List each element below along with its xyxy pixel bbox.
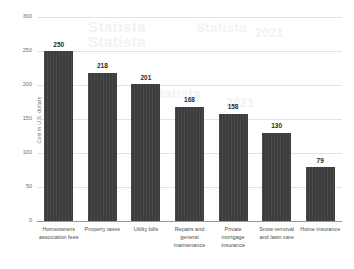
bar-value-label: 201 xyxy=(140,75,151,82)
bar[interactable] xyxy=(131,84,160,221)
bar-group[interactable]: 201 xyxy=(131,17,160,221)
y-axis-tick-label: 200 xyxy=(6,82,32,88)
bars-layer: 25021820116815813079 xyxy=(37,17,342,222)
bar-group[interactable]: 218 xyxy=(88,17,117,221)
bar[interactable] xyxy=(262,133,291,221)
x-axis-category-label: Home insurance xyxy=(299,226,341,234)
y-axis-tick-label: 100 xyxy=(6,150,32,156)
bar-group[interactable]: 158 xyxy=(219,17,248,221)
y-axis-tick-label: 250 xyxy=(6,48,32,54)
bar-value-label: 158 xyxy=(228,104,239,111)
x-axis-category-label: Private mortgage insurance xyxy=(212,226,254,250)
x-axis-category-label: Repairs and general maintenance xyxy=(169,226,211,250)
y-axis-tick-label: 50 xyxy=(6,184,32,190)
bar[interactable] xyxy=(44,51,73,221)
y-axis-title: Cost in U.S. dollars xyxy=(36,96,42,143)
bar-value-label: 130 xyxy=(271,123,282,130)
bar-group[interactable]: 250 xyxy=(44,17,73,221)
bar-group[interactable]: 79 xyxy=(306,17,335,221)
bar-group[interactable]: 168 xyxy=(175,17,204,221)
plot-area: 25021820116815813079 Cost in U.S. dollar… xyxy=(37,17,342,222)
x-axis-category-labels: Homeowners association feesProperty taxe… xyxy=(37,226,342,266)
x-axis-category-label: Snow removal and lawn care xyxy=(256,226,298,242)
bar[interactable] xyxy=(88,73,117,221)
bar-chart: Statista Statista Statista 2021 Statista… xyxy=(0,0,354,269)
y-axis-tick-label: 150 xyxy=(6,116,32,122)
y-axis-tick-label: 300 xyxy=(6,14,32,20)
x-axis-category-label: Utility bills xyxy=(125,226,167,234)
bar[interactable] xyxy=(175,107,204,221)
bar-value-label: 79 xyxy=(317,158,324,165)
bar-group[interactable]: 130 xyxy=(262,17,291,221)
bar-value-label: 168 xyxy=(184,97,195,104)
bar[interactable] xyxy=(219,114,248,221)
bar-value-label: 250 xyxy=(53,42,64,49)
bar[interactable] xyxy=(306,167,335,221)
x-axis-category-label: Property taxes xyxy=(82,226,124,234)
x-axis-category-label: Homeowners association fees xyxy=(38,226,80,242)
y-axis-tick-label: 0 xyxy=(6,218,32,224)
bar-value-label: 218 xyxy=(97,63,108,70)
